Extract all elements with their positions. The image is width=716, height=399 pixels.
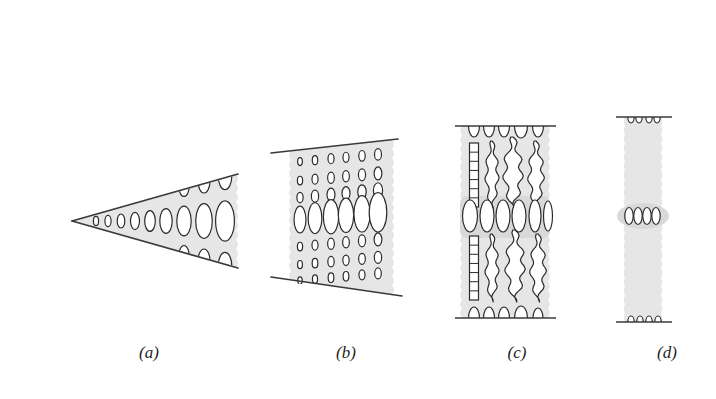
wedge-ellipse (177, 206, 191, 236)
trapezoid-ellipse (359, 150, 365, 161)
panel-caption-c: (c) (508, 343, 527, 362)
trapezoid-ellipse (375, 149, 382, 161)
trapezoid-ellipse (297, 176, 302, 185)
trapezoid-ellipse (297, 242, 302, 251)
trapezoid-ellipse (312, 174, 318, 184)
trapezoid-ellipse (343, 152, 349, 162)
trapezoid-ellipse (311, 190, 318, 202)
strip-ellipse (643, 208, 651, 225)
trapezoid-ellipse (328, 238, 335, 249)
panel-caption-d: (d) (657, 343, 677, 362)
wedge-ellipse (93, 216, 98, 225)
strip-ellipse (634, 208, 642, 225)
wedge-ellipse (105, 215, 111, 226)
column-middle-ellipse (480, 200, 494, 232)
trapezoid-ellipse (374, 167, 382, 180)
column-middle-ellipse (529, 200, 541, 232)
four-panel-morphology-figure: (a) (b) (c) (d) (0, 0, 716, 399)
strip-ellipse (625, 208, 633, 225)
trapezoid-ellipse (359, 270, 365, 280)
trapezoid-ellipse (343, 255, 349, 266)
trapezoid-ellipse (312, 275, 317, 284)
trapezoid-ellipse (323, 200, 338, 234)
trapezoid-ellipse (343, 272, 349, 282)
wedge-ellipse (216, 201, 235, 241)
trapezoid-ellipse (338, 198, 353, 232)
trapezoid-ellipse (328, 273, 334, 283)
trapezoid-ellipse (328, 256, 334, 267)
wedge-ellipse (131, 212, 140, 229)
trapezoid-ellipse (308, 203, 322, 234)
trapezoid-ellipse (358, 235, 365, 247)
wedge-ellipse (117, 214, 125, 228)
trapezoid-ellipse (312, 258, 318, 267)
column-middle-ellipse (496, 200, 510, 232)
column-middle-ellipse (544, 201, 553, 231)
trapezoid-ellipse (328, 172, 335, 183)
column-middle-ellipse (512, 200, 526, 232)
column-middle-ellipse (463, 200, 478, 232)
trapezoid-ellipse (358, 169, 365, 181)
trapezoid-ellipse (375, 268, 382, 279)
trapezoid-ellipse (359, 253, 366, 264)
trapezoid-ellipse (343, 237, 350, 248)
wedge-ellipse (196, 204, 213, 239)
trapezoid-ellipse (312, 156, 317, 165)
column-middle-ellipses (463, 200, 553, 232)
wedge-ellipse (160, 209, 172, 234)
trapezoid-ellipse (298, 158, 303, 166)
trapezoid-ellipse (354, 196, 370, 232)
panel-c-column (455, 114, 556, 330)
trapezoid-ellipse (297, 192, 303, 202)
strip-ellipse (652, 208, 660, 225)
trapezoid-ellipse (343, 171, 350, 182)
panel-caption-a: (a) (139, 343, 159, 362)
panel-b-trapezoid (271, 139, 402, 296)
trapezoid-ellipse (374, 233, 382, 246)
trapezoid-ellipse (374, 251, 381, 263)
trapezoid-ellipse (369, 193, 387, 232)
trapezoid-ellipse (328, 154, 334, 164)
trapezoid-ellipse (312, 240, 318, 250)
trapezoid-ellipse (294, 206, 306, 233)
trapezoid-ellipse (298, 261, 303, 269)
panel-caption-b: (b) (336, 343, 356, 362)
wedge-ellipse (145, 211, 156, 232)
figure-container: (a) (b) (c) (d) (0, 0, 716, 399)
